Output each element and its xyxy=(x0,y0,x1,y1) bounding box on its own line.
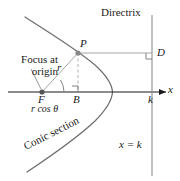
x-axis-arrowhead xyxy=(159,89,166,95)
right-angle-marker-d xyxy=(146,53,152,59)
x-axis-label: x xyxy=(168,84,173,96)
point-p-label: P xyxy=(80,38,87,50)
tick-k-label: k xyxy=(148,94,153,106)
angle-theta-arc xyxy=(61,80,65,92)
point-d-label: D xyxy=(157,47,165,59)
focus-at-origin-label: Focus at origin xyxy=(2,54,58,78)
radius-r-label: r xyxy=(57,62,61,74)
directrix-equation-label: x = k xyxy=(119,139,142,151)
directrix-label: Directrix xyxy=(101,7,141,19)
point-b-label: B xyxy=(73,94,80,106)
point-p-marker xyxy=(75,50,80,55)
diagram-canvas xyxy=(0,0,180,181)
r-cos-theta-label: r cos θ xyxy=(31,104,58,115)
right-angle-marker-b xyxy=(72,86,78,92)
conic-section-polar-diagram: Directrix Focus at origin P D r F B k x … xyxy=(0,0,180,181)
